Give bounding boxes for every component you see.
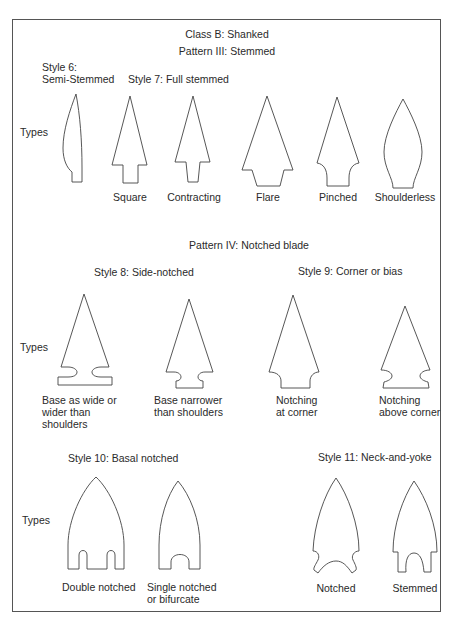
notched-above-corner-point-icon — [381, 306, 430, 388]
side-notched-wide-base-point-icon — [58, 294, 112, 385]
semi-stemmed-point-icon — [63, 94, 82, 182]
neck-yoke-stemmed-point-icon — [393, 481, 437, 572]
projectile-point-outlines — [0, 0, 454, 625]
contracting-stem-point-icon — [175, 96, 210, 182]
neck-yoke-notched-point-icon — [313, 478, 359, 573]
flare-stem-point-icon — [242, 96, 293, 186]
square-stem-point-icon — [112, 96, 147, 183]
double-basal-notched-point-icon — [68, 477, 124, 569]
single-basal-notched-point-icon — [159, 481, 200, 569]
side-notched-narrow-base-point-icon — [166, 299, 213, 388]
shoulderless-point-icon — [384, 99, 422, 188]
pinched-point-icon — [317, 97, 359, 186]
corner-notched-point-icon — [269, 295, 319, 388]
